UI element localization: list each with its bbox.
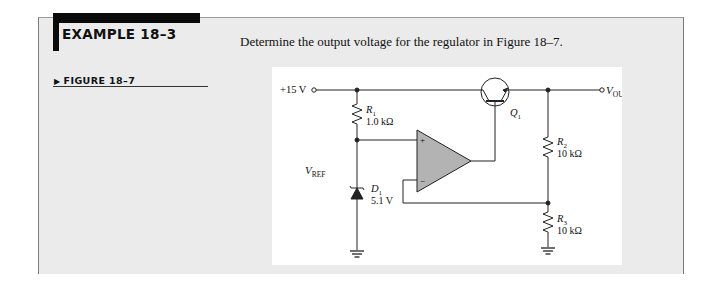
ground-icon [541,248,555,254]
figure-label-rule [53,86,208,87]
triangle-arrow-icon: ▶ [54,77,61,86]
op-amp-icon [417,130,471,192]
example-header-bar-left [53,13,59,51]
svg-text:+: + [420,135,425,145]
ground-icon [350,251,364,257]
svg-text:5.1 V: 5.1 V [371,195,394,206]
voltage-regulator-schematic: +15 V R1 1.0 kΩ VREF D1 5.1 V + − [272,67,622,265]
problem-statement: Determine the output voltage for the reg… [240,34,563,50]
zener-diode-d1-icon [351,188,363,199]
example-header-bar [53,13,200,23]
svg-text:10 kΩ: 10 kΩ [557,148,582,159]
output-terminal-icon [600,88,604,92]
example-title: EXAMPLE 18–3 [62,26,176,42]
resistor-r3-icon [543,212,553,232]
transistor-q1-icon [481,78,509,108]
svg-text:10 kΩ: 10 kΩ [557,225,582,236]
circuit-figure: +15 V R1 1.0 kΩ VREF D1 5.1 V + − [272,67,622,265]
svg-text:1.0 kΩ: 1.0 kΩ [366,116,393,127]
supply-terminal-icon [312,88,316,92]
resistor-r2-icon [543,137,553,157]
svg-text:−: − [420,176,425,186]
resistor-r1-icon [352,104,362,124]
svg-text:Q1: Q1 [510,107,522,121]
svg-text:VREF: VREF [305,164,326,179]
supply-label: +15 V [280,84,307,95]
figure-label-text: FIGURE 18–7 [64,75,136,86]
svg-text:VOUT: VOUT [606,84,622,99]
figure-label: ▶FIGURE 18–7 [54,75,135,86]
